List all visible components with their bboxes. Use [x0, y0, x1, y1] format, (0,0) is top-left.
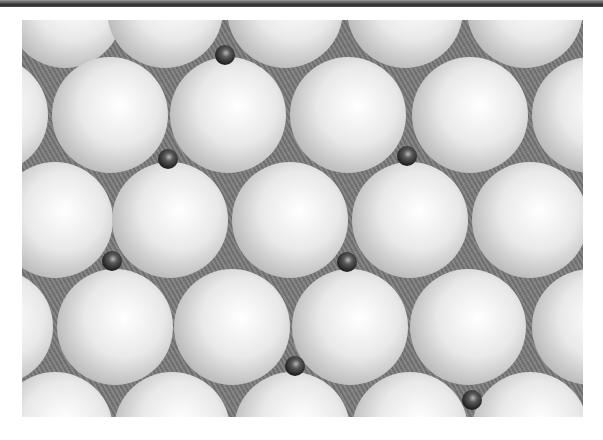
- large-sphere: [22, 269, 53, 385]
- large-sphere: [232, 162, 348, 278]
- large-sphere: [170, 57, 286, 173]
- top-border-bar: [0, 0, 603, 7]
- interstitial-atom: [102, 251, 122, 271]
- large-sphere: [174, 269, 290, 385]
- interstitial-atom: [462, 390, 482, 410]
- large-sphere: [57, 269, 173, 385]
- large-sphere: [22, 57, 48, 173]
- large-sphere: [472, 162, 583, 278]
- large-sphere: [412, 57, 528, 173]
- large-sphere: [290, 57, 406, 173]
- large-sphere: [292, 269, 408, 385]
- large-sphere: [532, 57, 583, 173]
- large-sphere: [22, 162, 113, 278]
- sphere-packing-canvas: [22, 20, 583, 417]
- sphere-packing-figure: [22, 20, 583, 417]
- interstitial-atom: [158, 149, 178, 169]
- large-sphere: [532, 269, 583, 385]
- large-spheres-layer: [22, 20, 583, 417]
- interstitial-atom: [285, 356, 305, 376]
- large-sphere: [410, 269, 526, 385]
- large-sphere: [52, 57, 168, 173]
- interstitial-atom: [397, 146, 417, 166]
- large-sphere: [352, 162, 468, 278]
- interstitial-atom: [215, 45, 235, 65]
- large-sphere: [112, 162, 228, 278]
- interstitial-atom: [337, 252, 357, 272]
